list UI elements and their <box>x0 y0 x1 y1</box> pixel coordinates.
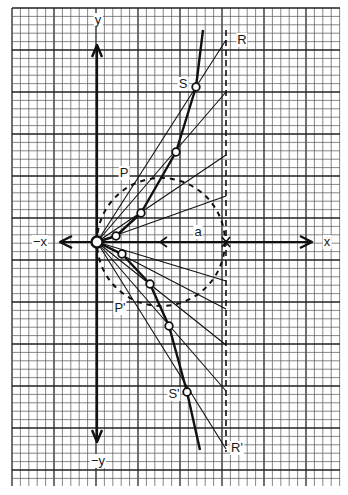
label-S: S <box>178 77 189 91</box>
construction-rays <box>97 40 226 449</box>
label-P: P <box>119 166 130 180</box>
label-x: x <box>323 235 332 249</box>
label-P-prime: P' <box>113 301 126 315</box>
label-a: a <box>193 225 202 239</box>
label-neg-y: −y <box>90 454 106 468</box>
label-y: y <box>94 13 103 27</box>
graph-paper-grid <box>12 8 340 486</box>
label-R: R <box>236 33 247 47</box>
label-R-prime: R' <box>230 441 244 455</box>
label-S-prime: S' <box>167 387 180 401</box>
strophoid-diagram <box>0 0 348 495</box>
label-neg-x: −x <box>32 235 48 249</box>
